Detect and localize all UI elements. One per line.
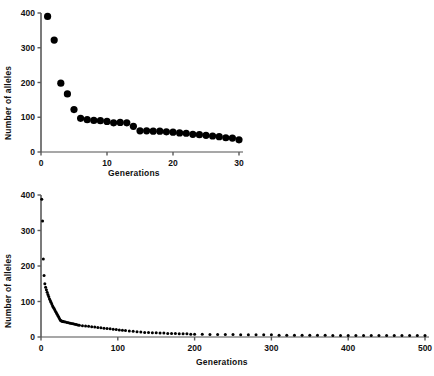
- data-point: [270, 333, 273, 336]
- data-point: [51, 37, 58, 44]
- data-point: [183, 130, 190, 137]
- x-tick-label: 200: [188, 343, 202, 353]
- data-point: [209, 132, 216, 139]
- x-tick-label: 100: [111, 343, 125, 353]
- data-point: [185, 332, 188, 335]
- x-tick-label: 10: [102, 158, 112, 168]
- data-point: [128, 329, 131, 332]
- y-tick-label: 300: [21, 226, 35, 236]
- data-point: [112, 328, 115, 331]
- data-point: [57, 80, 64, 87]
- chart-panel-top: 01002003004000102030: [0, 0, 434, 190]
- data-point: [81, 324, 84, 327]
- data-point: [377, 334, 380, 337]
- data-point: [124, 329, 127, 332]
- x-tick-label: 400: [341, 343, 355, 353]
- data-point: [96, 326, 99, 329]
- data-point: [139, 331, 142, 334]
- data-point: [169, 129, 176, 136]
- data-point: [132, 330, 135, 333]
- data-point: [196, 131, 203, 138]
- data-point: [103, 118, 110, 125]
- data-point: [178, 332, 181, 335]
- data-point: [424, 334, 427, 337]
- chart-panel-bottom: 01002003004000100200300400500: [0, 190, 434, 376]
- data-point: [41, 219, 44, 222]
- data-point: [109, 327, 112, 330]
- data-point: [64, 90, 71, 97]
- data-point: [130, 123, 137, 130]
- data-point: [208, 333, 211, 336]
- scatter-plot-top: 01002003004000102030: [0, 0, 434, 190]
- data-point: [99, 326, 102, 329]
- data-point: [143, 127, 150, 134]
- data-point: [77, 115, 84, 122]
- data-point: [151, 331, 154, 334]
- data-point: [163, 128, 170, 135]
- y-tick-label: 0: [30, 147, 35, 157]
- data-point: [44, 13, 51, 20]
- x-tick-label: 300: [264, 343, 278, 353]
- x-axis-label-top: Generations: [108, 168, 160, 178]
- data-point: [121, 329, 124, 332]
- data-point: [170, 332, 173, 335]
- x-tick-label: 0: [39, 343, 44, 353]
- data-point: [78, 324, 81, 327]
- data-point: [84, 116, 91, 123]
- data-point: [239, 333, 242, 336]
- data-point: [347, 334, 350, 337]
- data-point: [301, 334, 304, 337]
- data-point: [331, 334, 334, 337]
- allele-loss-figure: 01002003004000102030 Number of alleles G…: [0, 0, 434, 376]
- data-point: [70, 106, 77, 113]
- data-point: [255, 333, 258, 336]
- data-point: [293, 334, 296, 337]
- data-point: [354, 334, 357, 337]
- data-point: [385, 334, 388, 337]
- data-point: [182, 332, 185, 335]
- x-axis-label-bottom: Generations: [196, 357, 248, 367]
- data-point: [166, 332, 169, 335]
- data-point: [193, 333, 196, 336]
- y-tick-label: 100: [21, 112, 35, 122]
- data-point: [370, 334, 373, 337]
- data-point: [189, 131, 196, 138]
- data-point: [262, 333, 265, 336]
- data-point: [232, 333, 235, 336]
- data-point: [43, 274, 46, 277]
- data-point: [147, 331, 150, 334]
- data-point: [115, 328, 118, 331]
- data-point: [106, 327, 109, 330]
- data-point: [43, 282, 46, 285]
- data-point: [316, 334, 319, 337]
- data-point: [189, 333, 192, 336]
- data-point: [216, 133, 223, 140]
- data-point: [202, 132, 209, 139]
- data-point: [155, 331, 158, 334]
- y-tick-label: 400: [21, 8, 35, 18]
- data-point: [159, 332, 162, 335]
- data-point: [117, 119, 124, 126]
- data-point: [136, 330, 139, 333]
- y-axis-label-bottom: Number of alleles: [3, 218, 13, 328]
- data-point: [143, 331, 146, 334]
- y-tick-label: 300: [21, 43, 35, 53]
- data-point: [400, 334, 403, 337]
- data-point: [90, 117, 97, 124]
- data-point: [102, 327, 105, 330]
- data-point: [224, 333, 227, 336]
- data-point: [123, 119, 130, 126]
- data-point: [97, 117, 104, 124]
- data-point: [222, 134, 229, 141]
- x-tick-label: 30: [234, 158, 244, 168]
- data-point: [150, 128, 157, 135]
- data-point: [416, 334, 419, 337]
- data-series-alleles: [40, 198, 426, 337]
- x-tick-label: 0: [39, 158, 44, 168]
- data-point: [235, 136, 242, 143]
- y-tick-label: 200: [21, 261, 35, 271]
- data-point: [324, 334, 327, 337]
- data-point: [393, 334, 396, 337]
- y-tick-label: 200: [21, 78, 35, 88]
- data-point: [278, 334, 281, 337]
